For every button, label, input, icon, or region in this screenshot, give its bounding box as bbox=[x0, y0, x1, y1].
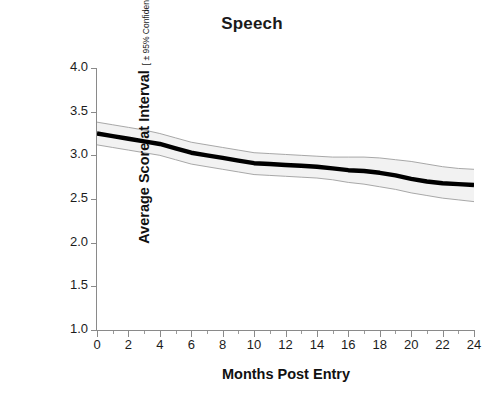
x-axis-minor-tick-mark bbox=[427, 331, 428, 334]
x-axis-minor-tick-mark bbox=[395, 331, 396, 334]
y-axis-tick-label: 3.0 bbox=[54, 146, 88, 161]
x-axis-tick-label: 24 bbox=[461, 337, 487, 352]
x-axis-minor-tick-mark bbox=[176, 331, 177, 334]
x-axis-tick-label: 10 bbox=[241, 337, 267, 352]
x-axis-tick-label: 0 bbox=[84, 337, 110, 352]
confidence-band bbox=[97, 122, 474, 201]
y-axis-tick-label: 2.0 bbox=[54, 234, 88, 249]
y-axis-tick-label: 1.5 bbox=[54, 277, 88, 292]
x-axis-tick-label: 22 bbox=[430, 337, 456, 352]
x-axis-tick-label: 4 bbox=[147, 337, 173, 352]
y-axis-tick-label: 3.5 bbox=[54, 103, 88, 118]
x-axis-minor-tick-mark bbox=[207, 331, 208, 334]
x-axis-minor-tick-mark bbox=[113, 331, 114, 334]
y-axis-subtitle: [ ± 95% Confidence Interval ] bbox=[141, 0, 152, 65]
x-axis-minor-tick-mark bbox=[364, 331, 365, 334]
y-axis-tick-label: 2.5 bbox=[54, 190, 88, 205]
x-axis-tick-label: 6 bbox=[178, 337, 204, 352]
plot-svg bbox=[97, 68, 474, 330]
y-axis-tick-labels: 1.01.52.02.53.03.54.0 bbox=[50, 0, 88, 404]
x-axis-tick-label: 2 bbox=[115, 337, 141, 352]
y-axis-title: Average Score at Interval bbox=[137, 70, 152, 244]
x-axis-tick-label: 14 bbox=[304, 337, 330, 352]
plot-area bbox=[97, 68, 474, 330]
x-axis-tick-label: 8 bbox=[210, 337, 236, 352]
x-axis-minor-tick-mark bbox=[333, 331, 334, 334]
x-axis-tick-label: 20 bbox=[398, 337, 424, 352]
y-axis-tick-label: 4.0 bbox=[54, 59, 88, 74]
x-axis-minor-tick-mark bbox=[144, 331, 145, 334]
x-axis-title: Months Post Entry bbox=[97, 366, 475, 382]
x-axis-minor-tick-mark bbox=[238, 331, 239, 334]
chart-figure: Speech 1.01.52.02.53.03.54.0 02468101214… bbox=[0, 0, 504, 404]
x-axis-minor-tick-mark bbox=[301, 331, 302, 334]
x-axis-tick-label: 12 bbox=[273, 337, 299, 352]
x-axis-tick-label: 16 bbox=[335, 337, 361, 352]
y-axis-tick-label: 1.0 bbox=[54, 321, 88, 336]
x-axis-minor-tick-mark bbox=[270, 331, 271, 334]
x-axis-tick-label: 18 bbox=[367, 337, 393, 352]
y-axis-title-group: Average Score at Interval [ ± 95% Confid… bbox=[92, 0, 152, 230]
y-axis-tick-mark bbox=[91, 286, 97, 287]
y-axis-tick-mark bbox=[91, 243, 97, 244]
x-axis-minor-tick-mark bbox=[458, 331, 459, 334]
